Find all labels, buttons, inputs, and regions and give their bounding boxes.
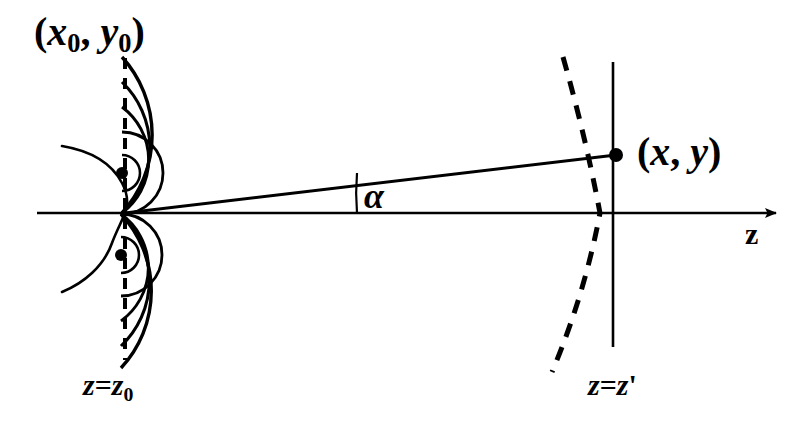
observation-point-dot (609, 148, 623, 162)
z-symbol-1: z (83, 368, 95, 401)
z0-subscript: 0 (123, 383, 133, 405)
equals-2: = (600, 368, 617, 401)
paren-close-2: ) (708, 129, 721, 174)
z-symbol-4: z (617, 368, 629, 401)
wavelet-arc-lower-2 (121, 214, 162, 296)
spherical-wavefront-dashed (552, 57, 600, 372)
aperture-profile-curve (62, 146, 127, 292)
angle-alpha-label: α (364, 178, 384, 214)
z-axis-label: z (745, 219, 758, 249)
source-point-lower-dot (115, 249, 127, 261)
angle-arc (356, 173, 357, 213)
y0-symbol: y (101, 9, 119, 54)
x0-subscript: 0 (67, 28, 80, 58)
comma-2: , (670, 129, 690, 174)
wavelets-lower-source (121, 214, 162, 368)
source-point-upper-dot (116, 167, 128, 179)
source-point-label: (x0, y0) (34, 12, 145, 57)
wavelets-upper-source (122, 57, 163, 214)
paren-close: ) (132, 9, 145, 54)
prime-mark: ' (628, 368, 636, 401)
source-plane-label: z=z0 (83, 370, 133, 404)
z-symbol-3: z (588, 368, 600, 401)
z-symbol-2: z (112, 368, 124, 401)
comma-1: , (81, 9, 101, 54)
equals-1: = (95, 368, 112, 401)
y-symbol: y (690, 129, 708, 174)
x0-symbol: x (47, 9, 67, 54)
physics-diagram: (x0, y0) (x, y) α z=z0 z=z' z (0, 0, 807, 434)
y0-subscript: 0 (118, 28, 131, 58)
observation-point-label: (x, y) (637, 132, 721, 172)
paren-open: ( (34, 9, 47, 54)
paren-open-2: ( (637, 129, 650, 174)
x-symbol: x (650, 129, 670, 174)
observation-plane-label: z=z' (588, 370, 637, 400)
